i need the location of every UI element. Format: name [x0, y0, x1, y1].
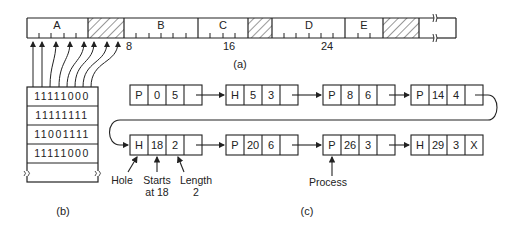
- segment-label-e: E: [360, 19, 367, 31]
- segment-label-b: B: [157, 19, 164, 31]
- node-start: 18: [151, 139, 163, 151]
- node-start: 0: [154, 89, 160, 101]
- node-start: 26: [344, 139, 356, 151]
- segment-label-c: C: [219, 19, 227, 31]
- node-length: 6: [268, 139, 274, 151]
- bitmap-arrows: [33, 42, 118, 87]
- node-type: H: [231, 89, 239, 101]
- break-icon: [433, 34, 437, 42]
- memory-diagram: A B C D E 8 16 24 (a) 11111000 11111111 …: [0, 0, 518, 228]
- annotation-length-value: 2: [193, 186, 199, 198]
- node-length: 4: [453, 89, 459, 101]
- node-length: 2: [172, 139, 178, 151]
- tick-label-24: 24: [321, 40, 333, 52]
- hole-segment: [248, 18, 272, 38]
- bitmap-row: 11111111: [35, 109, 88, 121]
- node-length: 3: [453, 139, 459, 151]
- node-length: 3: [365, 139, 371, 151]
- node-length: 5: [172, 89, 178, 101]
- annotation-length: Length: [180, 174, 212, 186]
- bitmap: 11111000 11111111 11001111 11111000 (b): [24, 87, 101, 217]
- caption-b: (b): [56, 205, 69, 217]
- bitmap-row: 11111000: [34, 147, 90, 159]
- caption-a: (a): [233, 58, 246, 70]
- segment-label-d: D: [305, 19, 313, 31]
- node-type: H: [135, 139, 143, 151]
- tick-label-16: 16: [223, 40, 235, 52]
- caption-c: (c): [301, 205, 314, 217]
- node-type: P: [135, 89, 142, 101]
- node-start: 8: [347, 89, 353, 101]
- pointer-arrows: [110, 95, 498, 145]
- break-icon: [433, 14, 437, 22]
- memory-bar: A B C D E 8 16 24 (a): [27, 14, 456, 70]
- node-type: P: [328, 139, 335, 151]
- node-type: P: [328, 89, 335, 101]
- node-start: 20: [247, 139, 259, 151]
- node-length: 3: [268, 89, 274, 101]
- annotation-starts-at: at 18: [145, 186, 169, 198]
- tick-label-8: 8: [126, 40, 132, 52]
- annotation-hole: Hole: [111, 174, 133, 186]
- node-start: 14: [432, 89, 444, 101]
- hole-segment: [88, 18, 124, 38]
- node-type: P: [231, 139, 238, 151]
- hole-segment: [383, 18, 419, 38]
- bitmap-row: 11001111: [34, 128, 90, 140]
- bitmap-row: 11111000: [34, 90, 90, 102]
- node-type: H: [416, 139, 424, 151]
- node-type: P: [416, 89, 423, 101]
- node-start: 5: [250, 89, 256, 101]
- segment-label-a: A: [53, 19, 61, 31]
- annotation-process: Process: [309, 176, 347, 188]
- node-start: 29: [432, 139, 444, 151]
- annotation-starts: Starts: [143, 174, 170, 186]
- node-null-pointer: X: [470, 139, 478, 151]
- node-length: 6: [365, 89, 371, 101]
